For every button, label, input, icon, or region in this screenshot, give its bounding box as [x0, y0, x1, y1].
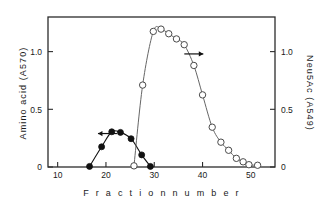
data-point-filled	[139, 152, 145, 158]
x-tick-label: 30	[150, 170, 160, 180]
data-point-open	[181, 41, 187, 47]
y-axis-left-ticks: 00.51.0	[30, 47, 53, 172]
data-point-filled	[117, 129, 123, 135]
data-series	[87, 26, 261, 170]
data-point-open	[218, 139, 224, 145]
data-point-open	[158, 26, 164, 32]
y-axis-right-ticks: 00.51.0	[270, 47, 293, 172]
plot-area: 1020304050 00.51.0 00.51.0	[0, 0, 329, 207]
data-point-open	[246, 161, 252, 167]
axis-box	[48, 17, 275, 167]
data-point-filled	[128, 136, 134, 142]
data-point-filled	[99, 144, 105, 150]
y-right-tick-label: 0.5	[281, 105, 293, 115]
series-line	[134, 26, 258, 165]
x-tick-label: 20	[101, 170, 111, 180]
left-arrow-head	[98, 131, 103, 136]
y-right-tick-label: 0	[281, 162, 286, 172]
x-tick-label: 50	[246, 170, 256, 180]
data-point-open	[225, 147, 231, 153]
plot-frame	[48, 17, 275, 167]
x-tick-label: 10	[53, 170, 63, 180]
data-point-filled	[147, 163, 153, 169]
series-line	[90, 131, 151, 167]
x-tick-label: 40	[198, 170, 208, 180]
data-point-open	[139, 82, 145, 88]
data-point-open	[199, 92, 205, 98]
data-point-filled	[87, 163, 93, 169]
data-point-open	[173, 36, 179, 42]
data-point-open	[209, 124, 215, 130]
right-arrow-head	[199, 51, 204, 56]
chromatography-figure: Amino acid (A570) Neu5Ac (A549) F r a c …	[0, 0, 329, 207]
annotations	[98, 51, 203, 136]
data-point-open	[254, 162, 260, 168]
data-point-open	[150, 28, 156, 34]
y-left-tick-label: 0.5	[30, 105, 42, 115]
y-left-tick-label: 1.0	[30, 47, 42, 57]
y-left-tick-label: 0	[37, 162, 42, 172]
data-point-open	[191, 62, 197, 68]
data-point-open	[166, 31, 172, 37]
data-point-open	[233, 155, 239, 161]
data-point-open	[131, 163, 137, 169]
x-axis-ticks: 1020304050	[53, 162, 256, 180]
y-right-tick-label: 1.0	[281, 47, 293, 57]
